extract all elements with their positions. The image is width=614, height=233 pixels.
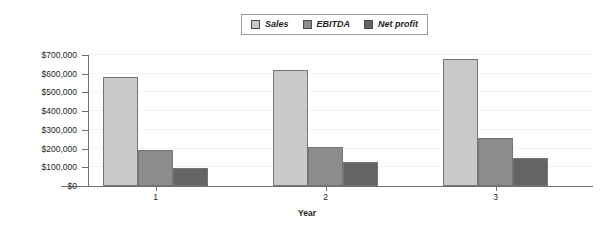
bar <box>343 162 378 186</box>
y-axis-tick <box>82 186 88 187</box>
gridline <box>88 73 593 74</box>
y-axis-tick <box>82 92 88 93</box>
bar <box>273 70 308 186</box>
y-axis-tick-label: $600,000 <box>42 70 77 79</box>
y-axis-tick-label: $300,000 <box>42 126 77 135</box>
y-axis-tick <box>82 111 88 112</box>
y-axis-tick <box>82 55 88 56</box>
y-axis-tick <box>82 149 88 150</box>
x-axis-line <box>61 186 593 187</box>
y-axis-tick-label: $200,000 <box>42 145 77 154</box>
legend-item-label: EBITDA <box>317 20 351 29</box>
legend-item[interactable]: Net profit <box>364 20 418 29</box>
legend-swatch-icon <box>364 20 373 29</box>
legend-item-label: Sales <box>265 20 289 29</box>
gridline <box>88 129 593 130</box>
gridline <box>88 110 593 111</box>
x-axis-category-label: 1 <box>136 193 176 202</box>
y-axis-tick-label: $0 <box>68 182 77 191</box>
legend-item[interactable]: Sales <box>251 20 289 29</box>
y-axis-tick <box>82 130 88 131</box>
chart-legend: SalesEBITDANet profit <box>241 14 428 35</box>
legend-swatch-icon <box>303 20 312 29</box>
bar <box>308 147 343 186</box>
y-axis-tick-label: $500,000 <box>42 88 77 97</box>
x-axis-tick <box>156 187 157 191</box>
legend-swatch-icon <box>251 20 260 29</box>
y-axis-tick <box>82 167 88 168</box>
bar-chart: SalesEBITDANet profit $0$100,000$200,000… <box>0 0 614 233</box>
bar <box>478 138 513 186</box>
legend-item[interactable]: EBITDA <box>303 20 351 29</box>
x-axis-category-label: 3 <box>476 193 516 202</box>
x-axis-tick <box>496 187 497 191</box>
y-axis-tick-label: $400,000 <box>42 107 77 116</box>
y-axis-tick-label: $100,000 <box>42 163 77 172</box>
plot-area <box>88 55 593 186</box>
x-axis-title: Year <box>0 209 614 218</box>
gridline <box>88 54 593 55</box>
bar <box>513 158 548 186</box>
bar <box>138 150 173 186</box>
x-axis-tick <box>326 187 327 191</box>
y-axis-tick-label: $700,000 <box>42 51 77 60</box>
gridline <box>88 91 593 92</box>
bar <box>103 77 138 186</box>
legend-item-label: Net profit <box>378 20 418 29</box>
bar <box>173 168 208 186</box>
y-axis-line <box>88 55 89 186</box>
bar <box>443 59 478 186</box>
x-axis-category-label: 2 <box>306 193 346 202</box>
y-axis-tick <box>82 74 88 75</box>
